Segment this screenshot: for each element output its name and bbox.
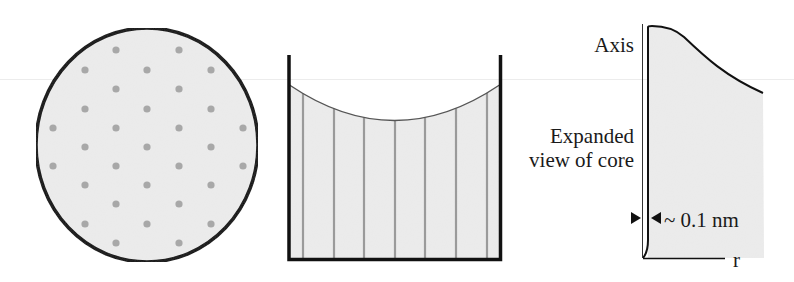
diagram: Axis Expanded view of core ~ 0.1 nm r xyxy=(0,0,794,282)
left-arrowhead-icon xyxy=(631,212,641,224)
vortex-dot xyxy=(112,162,119,169)
cross-section-panel xyxy=(36,28,258,262)
vortex-dot xyxy=(207,181,214,188)
vortex-dot xyxy=(143,220,150,227)
vortex-dot xyxy=(143,66,150,73)
vortex-dot xyxy=(143,181,150,188)
vortex-dot xyxy=(49,124,56,131)
container-panel xyxy=(289,55,501,260)
vortex-dot xyxy=(81,105,88,112)
view-of-core-label: view of core xyxy=(529,148,634,172)
expanded-label: Expanded xyxy=(550,124,634,148)
vortex-dot xyxy=(143,143,150,150)
vortex-dot xyxy=(207,220,214,227)
vortex-dot xyxy=(175,46,182,53)
vortex-dot xyxy=(49,162,56,169)
vortex-dot xyxy=(175,200,182,207)
vortex-dot xyxy=(175,124,182,131)
r-axis-label: r xyxy=(733,248,740,272)
vortex-dot xyxy=(239,124,246,131)
vortex-dot xyxy=(112,200,119,207)
vortex-dot xyxy=(112,239,119,246)
vortex-dot xyxy=(81,66,88,73)
vortex-dot xyxy=(112,46,119,53)
axis-label: Axis xyxy=(594,33,634,57)
vortex-dot xyxy=(112,124,119,131)
vortex-dot xyxy=(81,143,88,150)
core-profile-panel: Axis Expanded view of core ~ 0.1 nm r xyxy=(529,24,764,272)
vortex-dot xyxy=(207,66,214,73)
vortex-dot xyxy=(175,239,182,246)
vortex-dot xyxy=(175,162,182,169)
vortex-dot xyxy=(81,220,88,227)
width-annotation-label: ~ 0.1 nm xyxy=(664,208,739,232)
core-edge-curve xyxy=(643,240,648,258)
vortex-dot xyxy=(81,181,88,188)
vortex-dot xyxy=(239,162,246,169)
vortex-dot xyxy=(207,143,214,150)
vortex-dot xyxy=(112,85,119,92)
vortex-dot xyxy=(175,85,182,92)
vortex-dot xyxy=(207,105,214,112)
vortex-dot xyxy=(143,105,150,112)
